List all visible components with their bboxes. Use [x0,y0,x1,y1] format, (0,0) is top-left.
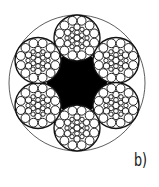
strand [93,83,139,129]
figure-label: b) [134,150,147,170]
strand [93,38,139,84]
strand [54,105,100,151]
strand [54,15,100,61]
strand [15,38,61,84]
strand [15,83,61,129]
